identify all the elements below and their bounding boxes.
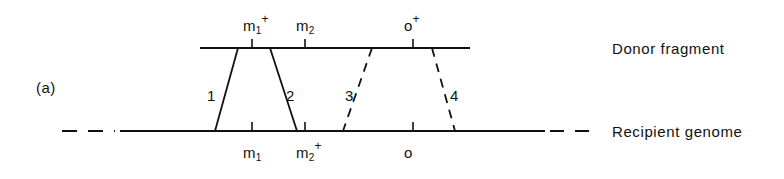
crossover-strand-1 bbox=[215, 48, 238, 131]
crossover-label-1: 1 bbox=[207, 88, 215, 103]
donor-marker-m2: m2 bbox=[296, 18, 314, 33]
crossover-label-4: 4 bbox=[450, 88, 458, 103]
recombination-diagram bbox=[0, 0, 784, 179]
recipient-genome-caption: Recipient genome bbox=[612, 124, 743, 139]
recipient-marker-o: o bbox=[404, 145, 413, 160]
donor-marker-o-plus: o+ bbox=[404, 18, 420, 33]
donor-fragment-caption: Donor fragment bbox=[612, 41, 725, 56]
donor-marker-m1-plus: m1+ bbox=[243, 18, 269, 33]
crossover-label-3: 3 bbox=[345, 88, 353, 103]
recipient-marker-m2-plus: m2+ bbox=[296, 145, 322, 160]
figure-container: (a) Donor fragment Recipient genome m1+m… bbox=[0, 0, 784, 179]
panel-label: (a) bbox=[36, 80, 56, 95]
recipient-marker-m1: m1 bbox=[243, 145, 261, 160]
crossover-label-2: 2 bbox=[286, 88, 294, 103]
